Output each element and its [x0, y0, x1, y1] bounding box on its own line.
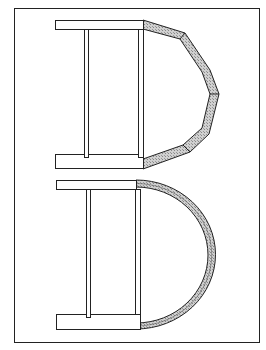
bottom-left-column — [87, 190, 91, 318]
top-right-column — [139, 30, 144, 158]
top-upper-bar — [56, 21, 144, 30]
bottom-upper-bar — [57, 181, 137, 190]
bottom-right-column — [136, 190, 141, 315]
bottom-lower-bar — [57, 315, 141, 330]
diagram-canvas — [0, 0, 266, 350]
top-left-column — [85, 30, 89, 158]
top-lower-bar — [56, 155, 144, 169]
